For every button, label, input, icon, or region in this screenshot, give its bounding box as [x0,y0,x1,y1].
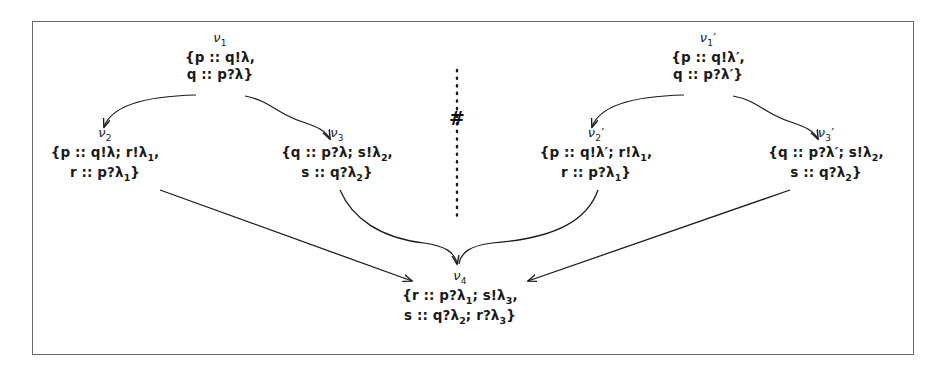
node-v1-label: ν1 [150,30,290,49]
node-v3-body: {q :: p?λ; s!λ2, s :: q?λ2} [252,144,422,184]
divider-hash-symbol: # [444,107,470,129]
node-v1-prime-body: {p :: q!λ′, q :: p?λ′} [638,49,778,84]
node-v2-body: {p :: q!λ; r!λ1, r :: p?λ1} [20,144,190,184]
node-v2: ν2 {p :: q!λ; r!λ1, r :: p?λ1} [20,125,190,184]
node-v1: ν1 {p :: q!λ, q :: p?λ} [150,30,290,84]
node-v1-prime: ν1′ {p :: q!λ′, q :: p?λ′} [638,30,778,84]
node-v3-prime-label: ν3′ [738,125,914,144]
node-v2-label: ν2 [20,125,190,144]
node-v2-prime-body: {p :: q!λ′; r!λ1, r :: p?λ1} [508,144,684,184]
node-v4: ν4 {r :: p?λ1; s!λ3, s :: q?λ2; r?λ3} [365,268,555,327]
node-v3-label: ν3 [252,125,422,144]
node-v2-prime-label: ν2′ [508,125,684,144]
node-v3: ν3 {q :: p?λ; s!λ2, s :: q?λ2} [252,125,422,184]
node-v1-body: {p :: q!λ, q :: p?λ} [150,49,290,84]
node-v3-prime: ν3′ {q :: p?λ′; s!λ2, s :: q?λ2} [738,125,914,184]
node-v4-label: ν4 [365,268,555,287]
node-v3-prime-body: {q :: p?λ′; s!λ2, s :: q?λ2} [738,144,914,184]
node-v2-prime: ν2′ {p :: q!λ′; r!λ1, r :: p?λ1} [508,125,684,184]
node-v4-body: {r :: p?λ1; s!λ3, s :: q?λ2; r?λ3} [365,287,555,327]
node-v1-prime-label: ν1′ [638,30,778,49]
